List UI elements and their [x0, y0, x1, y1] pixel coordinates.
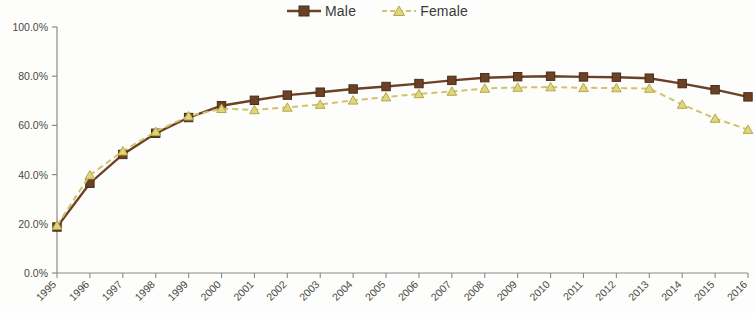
- data-point-marker: [744, 93, 752, 101]
- y-tick-label: 40.0%: [18, 169, 48, 181]
- data-point-marker: [481, 73, 489, 81]
- data-point-marker: [677, 100, 687, 108]
- data-point-marker: [678, 79, 686, 87]
- x-axis: 1995199619971998199920002001200220032004…: [33, 273, 749, 303]
- data-point-marker: [448, 76, 456, 84]
- x-tick-label: 2008: [461, 278, 486, 303]
- data-point-marker: [316, 88, 324, 96]
- x-tick-label: 2005: [362, 278, 387, 303]
- data-series-layer: [52, 72, 753, 231]
- x-tick-label: 2014: [659, 278, 684, 303]
- x-axis-ticks: 1995199619971998199920002001200220032004…: [33, 273, 749, 303]
- x-tick-label: 2009: [494, 278, 519, 303]
- x-tick-label: 2002: [264, 278, 289, 303]
- data-point-marker: [283, 91, 291, 99]
- x-tick-label: 2000: [198, 278, 223, 303]
- x-tick-label: 1996: [66, 278, 91, 303]
- x-tick-label: 2006: [395, 278, 420, 303]
- chart-container: Male Female 0.0%20.0%40.0%60.0%80.0%100.…: [0, 0, 755, 313]
- data-point-marker: [415, 79, 423, 87]
- data-point-marker: [349, 85, 357, 93]
- x-tick-label: 2016: [724, 278, 749, 303]
- x-tick-label: 2001: [231, 278, 256, 303]
- data-point-marker: [645, 74, 653, 82]
- data-point-marker: [250, 96, 258, 104]
- x-tick-label: 1998: [132, 278, 157, 303]
- chart-plot-area: 0.0%20.0%40.0%60.0%80.0%100.0% 199519961…: [0, 0, 755, 313]
- data-point-marker: [382, 82, 390, 90]
- y-tick-label: 20.0%: [18, 218, 48, 230]
- data-point-marker: [513, 72, 521, 80]
- x-tick-label: 2007: [428, 278, 453, 303]
- x-tick-label: 2012: [593, 278, 618, 303]
- x-tick-label: 1997: [99, 278, 124, 303]
- data-point-marker: [546, 72, 554, 80]
- x-tick-label: 1999: [165, 278, 190, 303]
- x-tick-label: 2013: [626, 278, 651, 303]
- series-line: [57, 76, 748, 227]
- x-tick-label: 2015: [692, 278, 717, 303]
- data-point-marker: [710, 114, 720, 122]
- data-point-marker: [579, 73, 587, 81]
- y-tick-label: 60.0%: [18, 119, 48, 131]
- x-tick-label: 2010: [527, 278, 552, 303]
- x-tick-label: 2004: [330, 278, 355, 303]
- series-female: [52, 82, 753, 229]
- data-point-marker: [612, 73, 620, 81]
- x-tick-label: 2003: [297, 278, 322, 303]
- y-tick-label: 80.0%: [18, 70, 48, 82]
- y-tick-label: 100.0%: [12, 21, 48, 33]
- x-tick-label: 2011: [560, 278, 585, 303]
- y-axis: 0.0%20.0%40.0%60.0%80.0%100.0%: [12, 21, 57, 279]
- series-line: [57, 87, 748, 226]
- x-tick-label: 1995: [33, 278, 58, 303]
- y-tick-label: 0.0%: [24, 267, 48, 279]
- data-point-marker: [711, 86, 719, 94]
- y-axis-ticks: 0.0%20.0%40.0%60.0%80.0%100.0%: [12, 21, 57, 279]
